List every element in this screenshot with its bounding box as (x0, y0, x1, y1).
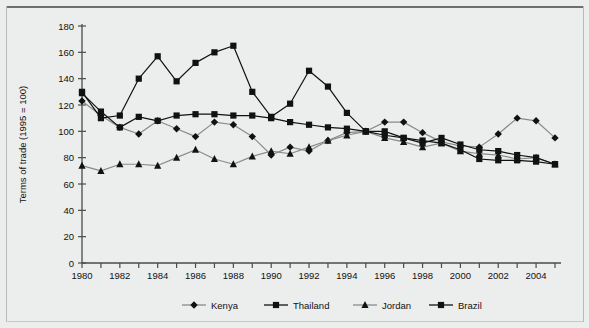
data-point-marker (136, 114, 142, 120)
x-axis-tick-label: 1992 (298, 270, 319, 281)
data-point-marker (98, 108, 104, 114)
chart-legend: KenyaThailandJordanBrazil (182, 300, 482, 311)
data-point-marker (268, 114, 274, 120)
data-point-marker (495, 157, 501, 163)
data-point-marker (438, 302, 444, 308)
data-point-marker (268, 147, 275, 154)
legend-item-jordan[interactable]: Jordan (353, 300, 411, 311)
data-point-marker (249, 89, 255, 95)
data-point-marker (419, 140, 425, 146)
series-layer (78, 43, 558, 174)
data-point-marker (190, 301, 197, 308)
series-line-kenya (82, 101, 555, 155)
legend-item-thailand[interactable]: Thailand (264, 300, 329, 311)
data-point-marker (287, 119, 293, 125)
data-point-marker (363, 128, 369, 134)
data-point-marker (400, 118, 407, 125)
data-point-marker (419, 129, 426, 136)
x-axis-tick-label: 2000 (450, 270, 471, 281)
series-line-jordan (82, 131, 555, 171)
data-point-marker (155, 118, 161, 124)
x-axis-tick-label: 1986 (185, 270, 206, 281)
y-axis-tick-label: 80 (63, 152, 74, 163)
data-point-marker (192, 146, 199, 153)
data-point-marker (136, 76, 142, 82)
x-axis-tick-label: 1994 (336, 270, 357, 281)
x-axis-tick-label: 1990 (261, 270, 282, 281)
data-point-marker (552, 161, 558, 167)
legend-label-thailand: Thailand (293, 300, 329, 311)
x-axis-tick-label: 1984 (147, 270, 168, 281)
data-point-marker (533, 155, 539, 161)
data-point-marker (98, 115, 104, 121)
y-axis-tick-label: 160 (58, 47, 74, 58)
y-axis-tick-label: 120 (58, 100, 74, 111)
x-axis-tick-label: 1998 (412, 270, 433, 281)
line-chart-plot: 0204060801001201401601801980198219841986… (0, 0, 589, 328)
data-point-marker (344, 110, 350, 116)
x-axis-tick-label: 1988 (223, 270, 244, 281)
data-point-marker (325, 124, 331, 130)
data-point-marker (211, 49, 217, 55)
data-point-marker (401, 135, 407, 141)
data-point-marker (78, 162, 85, 169)
y-axis-tick-label: 180 (58, 21, 74, 32)
data-point-marker (344, 126, 350, 132)
data-point-marker (155, 53, 161, 59)
y-axis-tick-label: 0 (69, 258, 74, 269)
x-axis-tick-label: 1982 (109, 270, 130, 281)
y-axis-tick-label: 20 (63, 231, 74, 242)
data-point-marker (117, 124, 123, 130)
series-kenya (78, 97, 558, 158)
data-point-marker (325, 83, 331, 89)
data-point-marker (211, 111, 217, 117)
legend-item-kenya[interactable]: Kenya (182, 300, 239, 311)
y-axis-title: Terms of trade (1995 = 100) (17, 86, 28, 204)
data-point-marker (230, 121, 237, 128)
data-point-marker (230, 112, 236, 118)
y-axis-tick-label: 40 (63, 205, 74, 216)
data-point-marker (287, 101, 293, 107)
data-point-marker (457, 141, 463, 147)
data-point-marker (476, 147, 482, 153)
data-point-marker (174, 112, 180, 118)
data-point-marker (495, 148, 501, 154)
data-point-marker (173, 125, 180, 132)
data-point-marker (382, 128, 388, 134)
chart-figure: 0204060801001201401601801980198219841986… (0, 0, 589, 328)
x-axis-tick-label: 1980 (71, 270, 92, 281)
data-point-marker (192, 111, 198, 117)
data-point-marker (249, 112, 255, 118)
data-point-marker (514, 152, 520, 158)
legend-label-jordan: Jordan (382, 300, 411, 311)
data-point-marker (174, 78, 180, 84)
x-axis-tick-label: 2004 (526, 270, 547, 281)
series-brazil (79, 43, 558, 168)
x-axis-tick-label: 1996 (374, 270, 395, 281)
y-axis-tick-label: 60 (63, 179, 74, 190)
data-point-marker (306, 122, 312, 128)
legend-label-kenya: Kenya (211, 300, 239, 311)
data-point-marker (192, 60, 198, 66)
data-point-marker (438, 135, 444, 141)
legend-item-brazil[interactable]: Brazil (429, 300, 482, 311)
data-point-marker (117, 112, 123, 118)
data-point-marker (211, 155, 218, 162)
data-point-marker (476, 156, 482, 162)
data-point-marker (135, 130, 142, 137)
y-axis-tick-label: 140 (58, 73, 74, 84)
series-thailand (79, 90, 558, 167)
data-point-marker (381, 118, 388, 125)
legend-label-brazil: Brazil (458, 300, 482, 311)
data-point-marker (286, 143, 293, 150)
data-point-marker (306, 68, 312, 74)
data-point-marker (230, 43, 236, 49)
y-axis-title-text: Terms of trade (1995 = 100) (17, 86, 28, 204)
data-point-marker (273, 302, 279, 308)
y-axis-tick-label: 100 (58, 126, 74, 137)
x-axis-tick-label: 2002 (488, 270, 509, 281)
data-point-marker (79, 89, 85, 95)
